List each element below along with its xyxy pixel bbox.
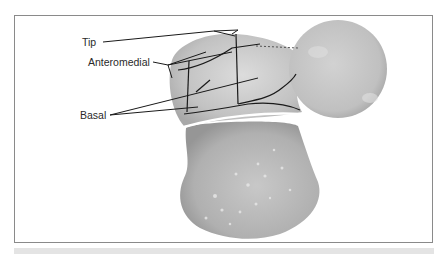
round-disc xyxy=(289,20,387,118)
label-tip: Tip xyxy=(82,37,96,48)
label-anteromedial: Anteromedial xyxy=(88,57,150,68)
label-basal: Basal xyxy=(80,110,106,121)
specimen-illustration xyxy=(0,0,448,254)
lower-body xyxy=(180,122,319,239)
